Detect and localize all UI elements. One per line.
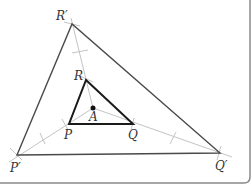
ray-to-r-prime [71, 18, 93, 108]
tick-mark [40, 133, 45, 144]
label-p-prime: P′ [9, 161, 21, 175]
tick-mark [170, 132, 176, 144]
diagram-canvas: R P Q A R′ P′ Q′ [0, 0, 252, 187]
label-r-prime: R′ [55, 9, 68, 23]
construction-lines [9, 18, 232, 162]
label-r: R [73, 69, 83, 83]
label-p: P [63, 128, 73, 142]
label-q: Q [128, 128, 138, 142]
label-q-prime: Q′ [215, 159, 228, 173]
tick-mark [10, 148, 22, 160]
enlargement-diagram: R P Q A R′ P′ Q′ [0, 0, 252, 187]
frame-border [0, 0, 250, 183]
label-a: A [88, 110, 98, 124]
tick-mark [72, 50, 88, 53]
triangle-p-q-r-prime [17, 24, 220, 155]
ray-to-q-prime [93, 108, 232, 157]
